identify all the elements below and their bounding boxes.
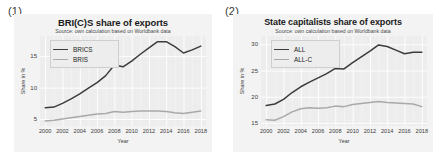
chart-panel-1: (1) BRI(C)S share of exports Source: own… bbox=[0, 0, 217, 156]
series-line bbox=[266, 101, 422, 120]
x-tick-label: 2004 bbox=[295, 128, 307, 134]
y-tick-label: 15 bbox=[234, 120, 258, 126]
legend-label: BRIS bbox=[73, 56, 88, 63]
y-axis-label-1: Share in % bbox=[20, 68, 26, 94]
legend-item: BRICS bbox=[53, 44, 115, 54]
x-tick-label: 2010 bbox=[125, 128, 137, 134]
legend-line-swatch bbox=[53, 49, 68, 50]
x-tick-label: 2016 bbox=[398, 128, 410, 134]
legend-label: ALL bbox=[294, 46, 305, 53]
x-tick-label: 2000 bbox=[260, 128, 272, 134]
chart-subtitle-1: Source: own calculation based on Worldba… bbox=[14, 28, 212, 34]
y-tick-label: 25 bbox=[234, 68, 258, 74]
x-tick-label: 2018 bbox=[195, 128, 207, 134]
x-tick-label: 2008 bbox=[329, 128, 341, 134]
legend-1: BRICSBRIS bbox=[50, 40, 119, 68]
figure-canvas-2: State capitalists share of exports Sourc… bbox=[233, 14, 433, 152]
x-tick-label: 2012 bbox=[143, 128, 155, 134]
x-tick-label: 2012 bbox=[364, 128, 376, 134]
legend-label: BRICS bbox=[73, 46, 93, 53]
y-tick-label: 20 bbox=[234, 94, 258, 100]
x-tick-label: 2014 bbox=[160, 128, 172, 134]
x-tick-label: 2006 bbox=[312, 128, 324, 134]
x-axis-label-2: Year bbox=[261, 138, 427, 144]
legend-line-swatch bbox=[274, 59, 289, 60]
y-axis-label-2: Share in % bbox=[239, 68, 245, 94]
legend-label: ALL-C bbox=[294, 56, 312, 63]
legend-item: ALL-C bbox=[274, 54, 336, 64]
chart-panel-2: (2) State capitalists share of exports S… bbox=[217, 0, 439, 156]
x-tick-label: 2006 bbox=[91, 128, 103, 134]
chart-title-2: State capitalists share of exports bbox=[233, 17, 433, 27]
chart-subtitle-2: Source: own calculation based on Worldba… bbox=[233, 28, 433, 34]
y-tick-label: 5 bbox=[13, 116, 37, 122]
x-tick-label: 2014 bbox=[381, 128, 393, 134]
x-tick-label: 2002 bbox=[277, 128, 289, 134]
figure-canvas-1: BRI(C)S share of exports Source: own cal… bbox=[14, 14, 212, 152]
x-tick-label: 2008 bbox=[108, 128, 120, 134]
legend-2: ALLALL-C bbox=[271, 40, 340, 68]
x-tick-label: 2004 bbox=[74, 128, 86, 134]
figure-root: (1) BRI(C)S share of exports Source: own… bbox=[0, 0, 439, 156]
x-axis-label-1: Year bbox=[40, 138, 206, 144]
x-tick-label: 2010 bbox=[346, 128, 358, 134]
legend-line-swatch bbox=[53, 59, 68, 60]
x-tick-label: 2016 bbox=[177, 128, 189, 134]
legend-line-swatch bbox=[274, 49, 289, 50]
x-tick-label: 2000 bbox=[39, 128, 51, 134]
x-tick-label: 2018 bbox=[416, 128, 428, 134]
chart-title-1: BRI(C)S share of exports bbox=[14, 17, 212, 28]
legend-item: BRIS bbox=[53, 54, 115, 64]
legend-item: ALL bbox=[274, 44, 336, 54]
y-tick-label: 30 bbox=[234, 41, 258, 47]
y-tick-label: 15 bbox=[13, 53, 37, 59]
x-tick-label: 2002 bbox=[56, 128, 68, 134]
